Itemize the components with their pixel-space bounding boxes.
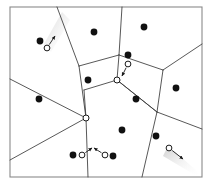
voronoi-vertex	[83, 115, 89, 121]
site-point	[110, 153, 117, 160]
site-point	[125, 52, 132, 59]
query-marker	[44, 45, 50, 51]
voronoi-vertex	[114, 77, 120, 83]
site-point	[119, 127, 126, 134]
voronoi-canvas	[0, 0, 212, 185]
site-point	[141, 24, 148, 31]
query-marker	[79, 152, 85, 158]
query-marker	[166, 145, 172, 151]
site-point	[85, 77, 92, 84]
site-point	[153, 133, 160, 140]
query-marker	[102, 152, 108, 158]
query-marker	[125, 61, 131, 67]
site-point	[36, 96, 43, 103]
voronoi-figure	[0, 0, 212, 185]
site-point	[70, 152, 77, 159]
site-point	[91, 29, 98, 36]
site-point	[133, 96, 140, 103]
site-point	[37, 38, 44, 45]
site-point	[173, 85, 180, 92]
